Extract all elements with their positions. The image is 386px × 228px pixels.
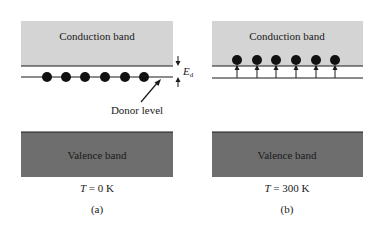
- electron-dot: [61, 72, 71, 82]
- electron-dot: [330, 55, 340, 65]
- conduction-band-label-a: Conduction band: [59, 30, 135, 42]
- arrow-down-icon: [176, 61, 181, 66]
- donor-level-label: Donor level: [111, 104, 163, 116]
- excitation-arrow: [255, 65, 260, 78]
- excitation-arrow: [314, 65, 319, 78]
- panel-b: Conduction band: [212, 21, 363, 216]
- arrow-up-icon: [176, 77, 181, 82]
- valence-band-a: Valence band: [21, 132, 173, 177]
- excitation-arrow: [274, 65, 279, 78]
- electron-dot: [100, 72, 110, 82]
- donor-level-band-diagram: Conduction band: [0, 0, 386, 228]
- panel-a: Conduction band: [21, 21, 194, 216]
- electron-dot: [252, 55, 262, 65]
- energy-gap-label: Ed: [182, 65, 194, 79]
- electron-dot: [80, 72, 90, 82]
- excitation-arrow: [235, 65, 240, 78]
- temperature-label-a: T = 0 K: [80, 182, 114, 194]
- donor-level-callout: Donor level: [111, 79, 163, 116]
- valence-band-label-b: Valence band: [258, 149, 317, 161]
- panel-label-a: (a): [91, 203, 104, 216]
- valence-band-b: Valence band: [212, 132, 363, 177]
- electron-dot: [311, 55, 321, 65]
- excitation-arrow: [333, 65, 338, 78]
- excitation-arrow: [294, 65, 299, 78]
- electron-dot: [42, 72, 52, 82]
- electron-dot: [291, 55, 301, 65]
- electron-dot: [139, 72, 149, 82]
- electron-dot: [232, 55, 242, 65]
- energy-gap-indicator: Ed: [176, 56, 194, 87]
- valence-band-label-a: Valence band: [68, 149, 127, 161]
- electron-dot: [271, 55, 281, 65]
- panel-label-b: (b): [281, 203, 294, 216]
- conduction-band-label-b: Conduction band: [249, 30, 325, 42]
- conduction-band-a: Conduction band: [21, 21, 173, 66]
- temperature-label-b: T = 300 K: [264, 182, 309, 194]
- electron-dot: [120, 72, 130, 82]
